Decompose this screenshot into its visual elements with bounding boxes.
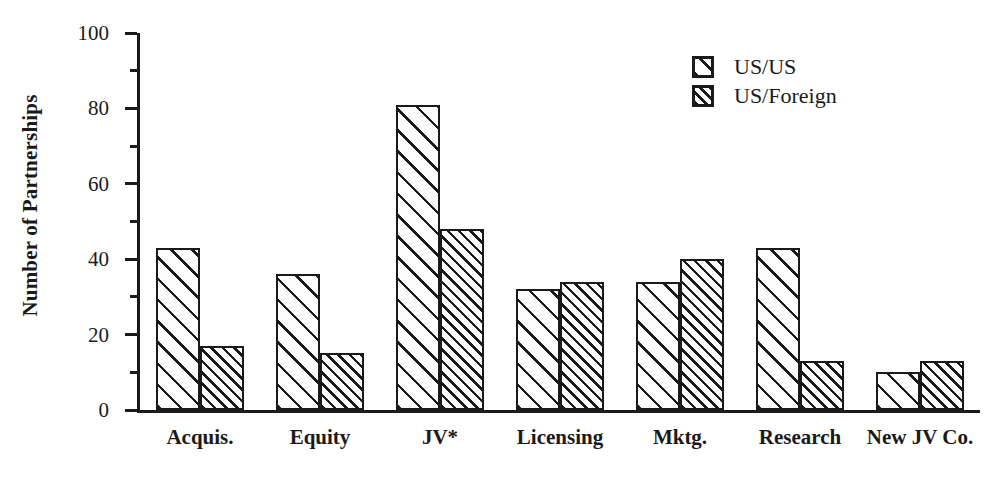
legend-label: US/Foreign (734, 83, 837, 109)
bar-us-us-new-jv-co (876, 372, 920, 410)
legend-item: US/US (692, 52, 837, 81)
x-axis-label: Research (759, 425, 841, 450)
y-tick-label: 60 (88, 171, 109, 196)
x-axis-label: Mktg. (653, 425, 707, 450)
y-tick-major (125, 409, 137, 412)
x-axis-category-labels: Acquis.EquityJV*LicensingMktg.ResearchNe… (140, 425, 983, 465)
legend-label: US/US (734, 54, 796, 80)
y-axis-title: Number of Partnerships (10, 0, 50, 410)
legend-item: US/Foreign (692, 81, 837, 110)
y-tick-label: 80 (88, 96, 109, 121)
bar-us-foreign-mktg (680, 259, 724, 410)
bar-group-container (140, 33, 980, 410)
bar-us-us-research (756, 248, 800, 410)
bar-us-foreign-equity (320, 353, 364, 410)
y-tick-label: 0 (99, 398, 110, 423)
y-tick-minor (130, 69, 137, 72)
y-tick-label: 40 (88, 247, 109, 272)
y-tick-minor (130, 371, 137, 374)
x-axis-label: Licensing (517, 425, 603, 450)
y-tick-major (125, 258, 137, 261)
bar-us-foreign-acquis (200, 346, 244, 410)
chart-legend: US/USUS/Foreign (692, 52, 837, 110)
wide-hatch-swatch (692, 56, 714, 78)
bar-us-foreign-new-jv-co (920, 361, 964, 410)
plot-area: 020406080100 (137, 33, 980, 410)
bar-us-foreign-jv (440, 229, 484, 410)
y-tick-major (125, 107, 137, 110)
bar-us-us-licensing (516, 289, 560, 410)
x-axis-label: New JV Co. (867, 425, 973, 450)
y-tick-major (125, 333, 137, 336)
y-tick-label: 20 (88, 322, 109, 347)
x-axis-label: Acquis. (166, 425, 233, 450)
dense-hatch-swatch (692, 85, 714, 107)
bar-us-us-acquis (156, 248, 200, 410)
bar-us-foreign-licensing (560, 282, 604, 410)
x-axis-label: Equity (290, 425, 351, 450)
x-axis-line (137, 410, 980, 413)
y-tick-label: 100 (78, 21, 110, 46)
bar-us-us-mktg (636, 282, 680, 410)
bar-us-us-equity (276, 274, 320, 410)
y-axis-title-text: Number of Partnerships (18, 94, 43, 316)
y-tick-major (125, 182, 137, 185)
bar-us-foreign-research (800, 361, 844, 410)
chart-figure: Number of Partnerships 020406080100 Acqu… (0, 0, 1003, 483)
y-tick-minor (130, 220, 137, 223)
bar-us-us-jv (396, 105, 440, 410)
y-tick-minor (130, 145, 137, 148)
y-tick-minor (130, 295, 137, 298)
x-axis-label: JV* (422, 425, 458, 450)
y-tick-major (125, 32, 137, 35)
